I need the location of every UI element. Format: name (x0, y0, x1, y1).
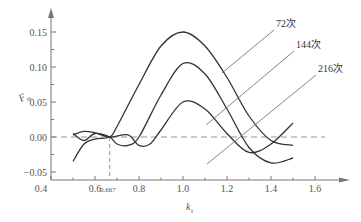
y-tick-label: −0.05 (24, 167, 47, 178)
chart-canvas: −0.050.000.050.100.150.60.81.01.21.41.60… (0, 0, 361, 222)
curve-144 (73, 63, 293, 164)
line-chart: −0.050.000.050.100.150.60.81.01.21.41.60… (0, 0, 361, 222)
x-axis-title: k i (186, 201, 193, 215)
y-tick-label: 0.15 (30, 27, 48, 38)
curve-label-72: 72次 (276, 17, 296, 29)
x-tick-label: 0.4 (35, 183, 48, 194)
x-tick-label: 1.4 (265, 183, 278, 194)
curve-label-216: 216次 (318, 62, 343, 74)
curve-72 (73, 32, 293, 162)
x-axis-arrow-icon (339, 178, 350, 183)
ref-x-label: 0.667 (100, 186, 116, 194)
curves (73, 32, 293, 163)
x-tick-label: 0.8 (133, 183, 146, 194)
y-tick-label: 0.10 (30, 62, 48, 73)
curve-label-144: 144次 (296, 38, 321, 50)
y-tick-label: 0.00 (30, 132, 48, 143)
curve-216 (73, 101, 293, 153)
leader-line-144 (206, 51, 294, 125)
y-axis-arrow-icon (48, 8, 54, 18)
leader-lines (206, 30, 316, 164)
x-tick-label: 1.0 (177, 183, 190, 194)
y-tick-label: 0.05 (30, 97, 48, 108)
x-tick-label: 1.6 (309, 183, 322, 194)
reference-lines (51, 137, 325, 180)
x-tick-label: 1.2 (221, 183, 234, 194)
x-axis-title-sub: i (191, 207, 193, 215)
leader-line-72 (222, 30, 274, 73)
